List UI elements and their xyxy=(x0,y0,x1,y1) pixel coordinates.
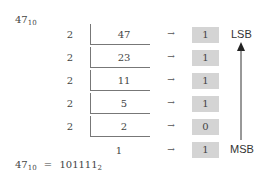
remainder-box: 1 xyxy=(192,73,219,89)
divisor: 2 xyxy=(64,75,76,86)
divisor: 2 xyxy=(64,121,76,132)
remainder-box: 1 xyxy=(192,27,219,43)
decimal-number: 4710 xyxy=(15,14,37,27)
divisor: 2 xyxy=(64,52,76,63)
dividend: 11 xyxy=(104,75,144,86)
remainder-box: 1 xyxy=(192,142,219,158)
conversion-result: 4710 = 1011112 xyxy=(15,159,102,172)
remainder-box: 1 xyxy=(192,50,219,66)
msb-label: MSB xyxy=(230,143,254,155)
arrow-right-icon: → xyxy=(161,51,181,61)
divisor: 2 xyxy=(64,98,76,109)
remainder-box: 1 xyxy=(192,96,219,112)
final-quotient: 1 xyxy=(99,145,139,156)
dividend: 23 xyxy=(104,52,144,63)
upward-arrow-icon xyxy=(236,42,246,140)
dividend: 5 xyxy=(104,98,144,109)
divisor: 2 xyxy=(64,29,76,40)
arrow-right-icon: → xyxy=(161,97,181,107)
arrow-right-icon: → xyxy=(161,28,181,38)
arrow-right-icon: → xyxy=(161,74,181,84)
arrow-right-icon: → xyxy=(161,144,181,154)
lsb-label: LSB xyxy=(231,28,252,40)
remainder-box: 0 xyxy=(192,119,219,135)
dividend: 2 xyxy=(104,121,144,132)
dividend: 47 xyxy=(104,29,144,40)
arrow-right-icon: → xyxy=(161,120,181,130)
